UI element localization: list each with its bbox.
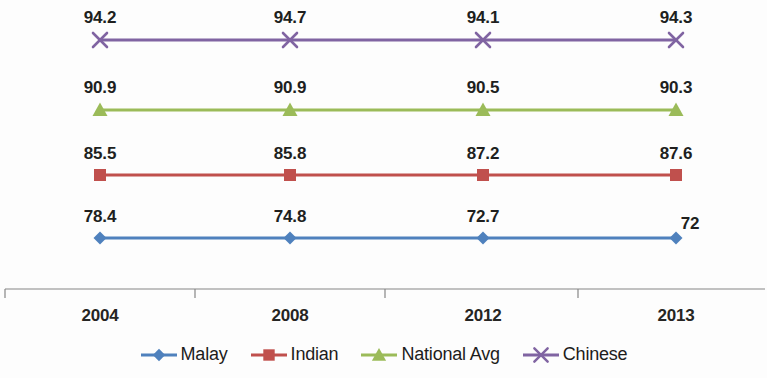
legend-item-national-avg[interactable]: National Avg xyxy=(360,344,499,365)
series-chinese xyxy=(93,33,683,47)
diamond-marker xyxy=(477,232,490,245)
series-national-avg xyxy=(93,103,684,117)
square-marker xyxy=(94,169,106,181)
square-marker xyxy=(284,169,296,181)
data-label: 90.5 xyxy=(467,78,499,98)
data-label: 87.2 xyxy=(467,144,499,164)
data-label: 74.8 xyxy=(274,207,306,227)
data-label: 85.5 xyxy=(84,144,116,164)
line-chart: 78.474.872.77285.585.887.287.690.990.990… xyxy=(0,0,767,378)
legend-item-chinese[interactable]: Chinese xyxy=(522,344,628,365)
series-malay xyxy=(94,232,683,245)
axis-tick-label: 2012 xyxy=(464,306,501,326)
data-label: 87.6 xyxy=(660,144,692,164)
legend-swatch xyxy=(140,346,178,364)
series-indian xyxy=(94,169,682,181)
x-axis xyxy=(5,289,765,298)
legend-swatch xyxy=(522,346,560,364)
square-marker xyxy=(670,169,682,181)
legend-label: Chinese xyxy=(563,344,628,365)
data-label: 94.1 xyxy=(467,8,499,28)
series-layer xyxy=(93,33,684,245)
data-label: 78.4 xyxy=(84,207,116,227)
data-label: 72 xyxy=(681,214,700,234)
data-label: 94.2 xyxy=(84,8,116,28)
data-label: 94.7 xyxy=(274,8,306,28)
diamond-marker xyxy=(284,232,297,245)
legend-label: Malay xyxy=(181,344,228,365)
data-label: 90.9 xyxy=(84,78,116,98)
legend-item-indian[interactable]: Indian xyxy=(250,344,339,365)
data-label: 72.7 xyxy=(467,207,499,227)
legend-swatch xyxy=(360,346,398,364)
square-marker xyxy=(263,349,274,360)
diamond-marker xyxy=(94,232,107,245)
legend-item-malay[interactable]: Malay xyxy=(140,344,228,365)
axis-tick-label: 2004 xyxy=(81,306,118,326)
axis-tick-label: 2013 xyxy=(657,306,694,326)
data-label: 90.3 xyxy=(660,78,692,98)
legend-swatch xyxy=(250,346,288,364)
square-marker xyxy=(477,169,489,181)
data-label: 94.3 xyxy=(660,8,692,28)
data-label: 85.8 xyxy=(274,144,306,164)
legend-label: Indian xyxy=(291,344,339,365)
diamond-marker xyxy=(152,348,164,360)
legend-label: National Avg xyxy=(401,344,499,365)
axis-tick-label: 2008 xyxy=(271,306,308,326)
chart-legend: MalayIndianNational AvgChinese xyxy=(0,344,767,365)
data-label: 90.9 xyxy=(274,78,306,98)
